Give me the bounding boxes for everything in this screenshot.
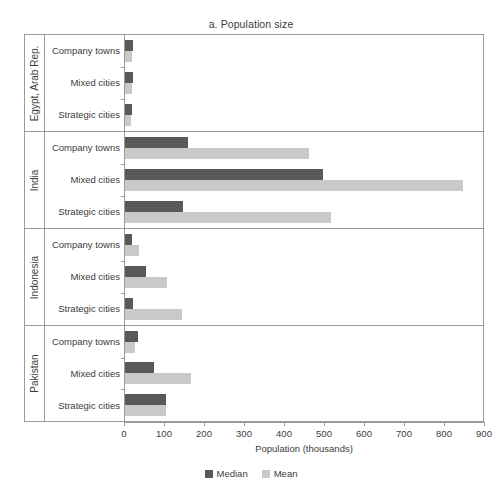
legend-label: Mean xyxy=(274,468,298,479)
country-label: Egypt, Arab Rep. xyxy=(25,35,45,131)
bar-median xyxy=(125,266,146,277)
category-label: Company towns xyxy=(45,132,124,164)
bar-median xyxy=(125,298,133,309)
bar-mean xyxy=(125,212,331,223)
chart-legend: MedianMean xyxy=(0,468,502,479)
category-label: Mixed cities xyxy=(45,261,124,293)
x-axis-tick xyxy=(324,422,325,426)
bar-mean xyxy=(125,51,132,62)
x-axis-tick xyxy=(444,422,445,426)
bar-mean xyxy=(125,83,132,94)
category-tick-mark xyxy=(121,196,125,197)
country-label-text: Egypt, Arab Rep. xyxy=(29,45,40,121)
country-label-text: Indonesia xyxy=(29,255,40,298)
bar-mean xyxy=(125,342,135,353)
bar-mean xyxy=(125,180,463,191)
bar-mean xyxy=(125,148,309,159)
bar-median xyxy=(125,201,183,212)
bar-median xyxy=(125,40,133,51)
country-label-text: India xyxy=(29,169,40,191)
bar-group xyxy=(125,35,483,67)
x-axis-tick xyxy=(484,422,485,426)
category-label: Strategic cities xyxy=(45,389,124,421)
legend-item[interactable]: Median xyxy=(205,468,248,479)
bar-median xyxy=(125,169,323,180)
bar-mean xyxy=(125,115,131,126)
category-label-column: Company townsMixed citiesStrategic citie… xyxy=(45,229,125,325)
bars-column xyxy=(125,132,483,228)
country-group: PakistanCompany townsMixed citiesStrateg… xyxy=(24,325,484,422)
legend-label: Median xyxy=(217,468,248,479)
x-axis-tick-label: 900 xyxy=(464,428,502,439)
bar-mean xyxy=(125,405,166,416)
bar-median xyxy=(125,394,166,405)
category-label: Strategic cities xyxy=(45,99,124,131)
country-label: Indonesia xyxy=(25,229,45,325)
country-label-text: Pakistan xyxy=(29,354,40,392)
legend-swatch-icon xyxy=(262,470,270,478)
bar-group xyxy=(125,229,483,261)
x-axis-tick-label: 400 xyxy=(264,428,304,439)
x-axis-tick-label: 600 xyxy=(344,428,384,439)
category-label: Company towns xyxy=(45,35,124,67)
bar-median xyxy=(125,234,132,245)
bar-median xyxy=(125,104,132,115)
bar-group xyxy=(125,99,483,131)
chart-title: a. Population size xyxy=(0,18,502,30)
bar-group xyxy=(125,196,483,228)
category-label: Strategic cities xyxy=(45,293,124,325)
x-axis-tick-label: 500 xyxy=(304,428,344,439)
category-label-column: Company townsMixed citiesStrategic citie… xyxy=(45,132,125,228)
x-axis-title: Population (thousands) xyxy=(124,443,484,454)
x-axis-tick xyxy=(404,422,405,426)
bar-median xyxy=(125,137,188,148)
country-label: India xyxy=(25,132,45,228)
bar-mean xyxy=(125,309,182,320)
bar-group xyxy=(125,326,483,358)
x-axis-tick xyxy=(364,422,365,426)
category-label-column: Company townsMixed citiesStrategic citie… xyxy=(45,35,125,131)
country-label: Pakistan xyxy=(25,326,45,421)
bar-group xyxy=(125,132,483,164)
x-axis-tick xyxy=(124,422,125,426)
country-group: IndiaCompany townsMixed citiesStrategic … xyxy=(24,131,484,228)
x-axis-tick-label: 0 xyxy=(104,428,144,439)
bar-median xyxy=(125,362,154,373)
category-label: Strategic cities xyxy=(45,196,124,228)
bar-group xyxy=(125,389,483,421)
bar-mean xyxy=(125,245,139,256)
category-tick-mark xyxy=(121,99,125,100)
legend-item[interactable]: Mean xyxy=(262,468,298,479)
plot-area: Egypt, Arab Rep.Company townsMixed citie… xyxy=(24,34,484,422)
bar-group xyxy=(125,67,483,99)
category-label: Company towns xyxy=(45,229,124,261)
bars-column xyxy=(125,326,483,421)
bar-group xyxy=(125,261,483,293)
bars-column xyxy=(125,35,483,131)
category-label: Mixed cities xyxy=(45,164,124,196)
category-tick-mark xyxy=(121,67,125,68)
bar-group xyxy=(125,293,483,325)
bar-group xyxy=(125,164,483,196)
bar-mean xyxy=(125,373,191,384)
category-tick-mark xyxy=(121,164,125,165)
category-label: Company towns xyxy=(45,326,124,358)
category-tick-mark xyxy=(121,293,125,294)
category-tick-mark xyxy=(121,389,125,390)
x-axis: 0100200300400500600700800900 xyxy=(124,422,484,423)
bar-group xyxy=(125,358,483,390)
x-axis-tick-label: 300 xyxy=(224,428,264,439)
x-axis-tick xyxy=(164,422,165,426)
category-label: Mixed cities xyxy=(45,67,124,99)
bar-median xyxy=(125,331,138,342)
x-axis-tick xyxy=(244,422,245,426)
bars-column xyxy=(125,229,483,325)
country-group: IndonesiaCompany townsMixed citiesStrate… xyxy=(24,228,484,325)
category-tick-mark xyxy=(121,261,125,262)
x-axis-tick-label: 200 xyxy=(184,428,224,439)
legend-swatch-icon xyxy=(205,470,213,478)
chart-figure: a. Population size Egypt, Arab Rep.Compa… xyxy=(0,0,502,499)
category-label: Mixed cities xyxy=(45,358,124,390)
bar-median xyxy=(125,72,133,83)
x-axis-tick-label: 100 xyxy=(144,428,184,439)
